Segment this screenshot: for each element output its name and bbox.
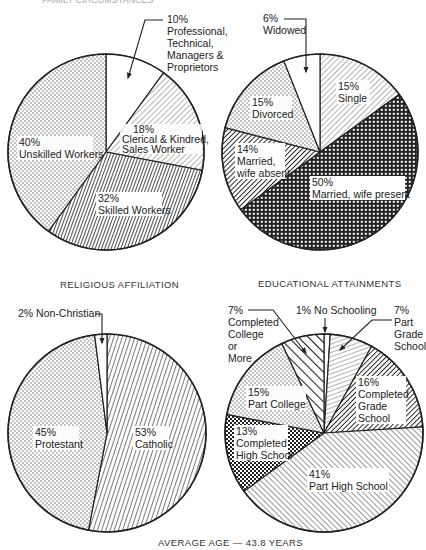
label-skilled-line: Skilled Workers — [98, 204, 171, 216]
figure-canvas: FAMILY CIRCUMSTANCES 10% Professional, T… — [0, 0, 426, 550]
label-part-college-pct: 15% — [248, 386, 269, 398]
label-no-schooling: 1% No Schooling — [296, 304, 377, 316]
label-widowed-pct: 6% — [263, 12, 278, 24]
title-educational-attainments: EDUCATIONAL ATTAINMENTS — [258, 278, 401, 289]
label-completed-college-line: Completed — [228, 316, 279, 328]
label-protestant-line: Protestant — [35, 438, 83, 450]
label-divorced-line: Divorced — [252, 108, 294, 120]
label-completed-college-line: More — [228, 352, 252, 364]
average-age-caption: AVERAGE AGE — 43.8 YEARS — [158, 537, 303, 548]
label-wife-absent-line: Married, — [237, 155, 276, 167]
label-catholic-pct: 53% — [135, 426, 156, 438]
label-unskilled-pct: 40% — [19, 136, 40, 148]
label-non-christian: 2% Non-Christian — [18, 307, 100, 319]
label-single-line: Single — [338, 92, 367, 104]
label-completed-high-line: Completed — [236, 437, 287, 449]
label-catholic-line: Catholic — [135, 438, 173, 450]
label-professional-pct: 10% — [167, 13, 188, 25]
label-part-high-line: Part High School — [309, 480, 388, 492]
label-completed-grade-line: Grade — [358, 400, 387, 412]
label-completed-grade-line: School — [358, 412, 390, 424]
label-skilled-pct: 32% — [98, 192, 119, 204]
cut-off-header: FAMILY CIRCUMSTANCES — [42, 0, 154, 5]
label-clerical-line: Sales Worker — [122, 143, 185, 155]
title-religious-affiliation: RELIGIOUS AFFILIATION — [60, 279, 179, 290]
label-part-high-pct: 41% — [309, 468, 330, 480]
label-professional-line: Professional, — [167, 25, 228, 37]
label-completed-college-line: or — [228, 340, 238, 352]
label-unskilled-line: Unskilled Workers — [19, 148, 103, 160]
label-part-grade-pct: 7% — [394, 304, 409, 316]
label-professional-line: Technical, — [167, 37, 214, 49]
label-wife-present-pct: 50% — [312, 176, 333, 188]
label-wife-present-line: Married, wife present — [312, 188, 410, 200]
label-professional-line: Managers & — [167, 49, 224, 61]
label-wife-absent-line: wife absent — [236, 167, 290, 179]
label-part-college-line: Part College — [248, 398, 306, 410]
label-professional-line: Proprietors — [167, 61, 218, 73]
label-completed-college-pct: 7% — [228, 304, 243, 316]
label-completed-grade-pct: 16% — [358, 376, 379, 388]
label-single-pct: 15% — [338, 80, 359, 92]
label-part-grade-line: Grade — [394, 328, 423, 340]
label-completed-college-line: College — [228, 328, 264, 340]
label-part-grade-line: Part — [394, 316, 413, 328]
label-wife-absent-pct: 14% — [237, 143, 258, 155]
label-completed-high-line: High School — [236, 449, 293, 461]
label-protestant-pct: 45% — [35, 426, 56, 438]
label-part-grade-line: School — [394, 340, 426, 352]
label-divorced-pct: 15% — [252, 96, 273, 108]
label-completed-high-pct: 13% — [236, 425, 257, 437]
label-completed-grade-line: Completed — [358, 388, 409, 400]
label-widowed-line: Widowed — [263, 24, 306, 36]
